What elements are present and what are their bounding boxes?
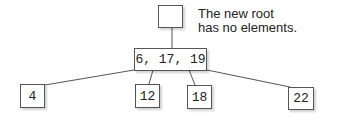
leaf-node-4: 4 <box>20 84 45 108</box>
root-node <box>158 5 183 28</box>
annotation-line-1: The new root <box>198 7 297 21</box>
edge-middle-leaf-22 <box>207 70 290 87</box>
edge-middle-leaf-18 <box>189 70 195 85</box>
leaf-node-22: 22 <box>288 87 314 110</box>
edge-middle-leaf-4 <box>45 70 134 85</box>
tree-diagram: The new root has no elements. 6, 17, 19 … <box>0 0 340 118</box>
middle-node: 6, 17, 19 <box>134 48 207 71</box>
leaf-node-18: 18 <box>187 85 212 109</box>
leaf-node-12: 12 <box>135 84 160 108</box>
root-annotation: The new root has no elements. <box>198 7 297 35</box>
annotation-line-2: has no elements. <box>198 21 297 35</box>
edge-middle-leaf-12 <box>149 70 153 84</box>
